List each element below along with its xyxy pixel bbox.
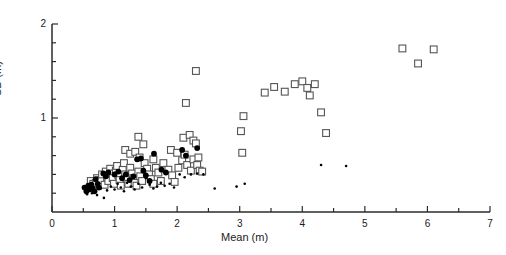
data-point-small-dot bbox=[320, 164, 323, 167]
data-point-small-dot bbox=[141, 186, 144, 189]
data-point-open-square bbox=[415, 60, 422, 67]
data-point-small-dot bbox=[133, 188, 136, 191]
data-point-open-square bbox=[169, 172, 176, 179]
data-point-open-square bbox=[261, 89, 268, 96]
data-point-open-square bbox=[195, 154, 202, 161]
data-point-small-dot bbox=[113, 188, 116, 191]
x-tick-label: 0 bbox=[42, 218, 62, 229]
data-point-open-square bbox=[150, 156, 157, 163]
data-point-open-square bbox=[139, 178, 146, 185]
data-point-filled-circle bbox=[115, 169, 121, 175]
data-point-open-square bbox=[135, 133, 142, 140]
data-point-open-square bbox=[304, 85, 311, 92]
data-point-open-square bbox=[399, 45, 406, 52]
data-point-small-dot bbox=[190, 173, 193, 176]
data-point-small-dot bbox=[196, 172, 199, 175]
data-point-filled-circle bbox=[105, 170, 111, 176]
data-point-small-dot bbox=[160, 182, 163, 185]
data-point-small-dot bbox=[178, 173, 181, 176]
data-point-small-dot bbox=[156, 185, 159, 188]
data-point-filled-circle bbox=[130, 173, 136, 179]
data-point-small-dot bbox=[173, 186, 176, 189]
data-point-small-dot bbox=[126, 182, 129, 185]
data-point-open-square bbox=[306, 92, 313, 99]
data-point-small-dot bbox=[110, 185, 113, 188]
data-point-filled-circle bbox=[163, 170, 169, 176]
data-point-small-dot bbox=[152, 187, 155, 190]
data-point-filled-circle bbox=[123, 172, 129, 178]
data-point-filled-circle bbox=[151, 151, 157, 157]
data-point-small-dot bbox=[145, 177, 148, 180]
data-point-open-square bbox=[140, 141, 147, 148]
data-point-small-dot bbox=[91, 192, 94, 195]
data-point-filled-circle bbox=[183, 153, 189, 159]
data-point-small-dot bbox=[116, 183, 119, 186]
data-point-small-dot bbox=[96, 194, 99, 197]
data-point-open-square bbox=[183, 100, 190, 107]
data-markers bbox=[82, 45, 437, 199]
data-point-open-square bbox=[323, 130, 330, 137]
data-point-small-dot bbox=[213, 187, 216, 190]
data-point-small-dot bbox=[345, 165, 348, 168]
y-tick-label: 1 bbox=[32, 112, 46, 123]
data-point-small-dot bbox=[120, 186, 123, 189]
data-point-small-dot bbox=[163, 184, 166, 187]
x-tick-label: 1 bbox=[105, 218, 125, 229]
scatter-plot-figure: Mean (m) SD (m) 0123456712 bbox=[0, 0, 506, 255]
data-point-small-dot bbox=[243, 183, 246, 186]
data-point-small-dot bbox=[130, 185, 133, 188]
data-point-filled-circle bbox=[138, 156, 144, 162]
data-point-small-dot bbox=[202, 173, 205, 176]
y-tick-label: 2 bbox=[32, 18, 46, 29]
data-point-open-square bbox=[175, 164, 182, 171]
data-point-open-square bbox=[318, 109, 325, 116]
data-point-small-dot bbox=[106, 189, 109, 192]
data-point-small-dot bbox=[123, 190, 126, 193]
data-point-small-dot bbox=[103, 197, 106, 200]
data-point-open-square bbox=[271, 84, 278, 91]
x-tick-label: 6 bbox=[417, 218, 437, 229]
data-point-open-square bbox=[430, 46, 437, 53]
data-point-open-square bbox=[311, 81, 318, 88]
data-point-open-square bbox=[299, 78, 306, 85]
x-axis-title: Mean (m) bbox=[221, 231, 268, 243]
x-tick-label: 5 bbox=[355, 218, 375, 229]
data-point-open-square bbox=[160, 160, 167, 167]
data-point-small-dot bbox=[100, 187, 103, 190]
data-point-filled-circle bbox=[179, 147, 185, 153]
x-tick-label: 4 bbox=[292, 218, 312, 229]
data-point-open-square bbox=[240, 113, 247, 120]
data-point-small-dot bbox=[148, 183, 151, 186]
data-point-filled-circle bbox=[194, 145, 200, 151]
data-point-small-dot bbox=[183, 176, 186, 179]
data-point-open-square bbox=[281, 88, 288, 95]
x-tick-label: 2 bbox=[167, 218, 187, 229]
data-point-small-dot bbox=[86, 193, 89, 196]
data-point-open-square bbox=[193, 68, 200, 75]
data-point-open-square bbox=[171, 179, 178, 186]
y-axis-title: SD (m) bbox=[0, 61, 3, 96]
plot-canvas bbox=[0, 0, 506, 255]
x-tick-label: 7 bbox=[480, 218, 500, 229]
x-tick-label: 3 bbox=[230, 218, 250, 229]
data-point-open-square bbox=[238, 128, 245, 135]
data-point-open-square bbox=[239, 149, 246, 156]
data-point-filled-circle bbox=[147, 178, 153, 184]
data-point-small-dot bbox=[137, 183, 140, 186]
data-point-small-dot bbox=[168, 183, 171, 186]
data-point-open-square bbox=[291, 81, 298, 88]
data-point-small-dot bbox=[235, 185, 238, 188]
